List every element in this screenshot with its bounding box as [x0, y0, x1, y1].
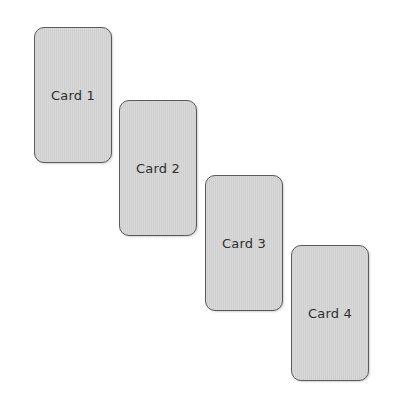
- card-3: Card 3: [205, 175, 283, 311]
- card-1-label: Card 1: [51, 88, 95, 103]
- card-2-label: Card 2: [136, 161, 180, 176]
- card-1: Card 1: [34, 27, 112, 163]
- card-4-label: Card 4: [308, 306, 352, 321]
- card-2: Card 2: [119, 100, 197, 236]
- card-3-label: Card 3: [222, 236, 266, 251]
- card-4: Card 4: [291, 245, 369, 381]
